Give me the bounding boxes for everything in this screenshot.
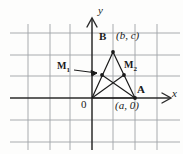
y-axis-label: y [98, 5, 103, 16]
point-label-b: B [99, 31, 106, 42]
point-marker-M1 [100, 73, 104, 77]
m1-subscript: 1 [66, 66, 70, 74]
medians [92, 75, 135, 98]
m2-subscript: 2 [133, 65, 137, 73]
geometry-figure: y x 0 B (b, c) A (a, 0) M1 M2 [0, 0, 183, 154]
point-markers [100, 50, 137, 100]
point-label-m1: M1 [57, 61, 70, 74]
point-label-m2: M2 [124, 60, 137, 73]
axes [10, 18, 170, 150]
point-marker-M2 [122, 73, 126, 77]
m1-pointer [74, 70, 97, 76]
point-coord-b: (b, c) [116, 30, 139, 41]
m1-pointer-arrowhead-icon [91, 71, 97, 77]
point-coord-a: (a, 0) [115, 100, 139, 111]
x-axis-label: x [172, 88, 177, 99]
point-label-a: A [137, 84, 145, 95]
figure-canvas [0, 0, 183, 154]
point-marker-B [111, 50, 115, 54]
origin-label: 0 [81, 99, 87, 110]
grid-lines [10, 24, 180, 150]
